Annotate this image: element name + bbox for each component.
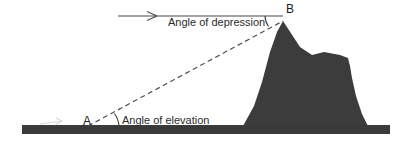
angle-of-elevation-label: Angle of elevation — [122, 114, 209, 126]
ground-direction-arrow-icon — [40, 118, 62, 125]
diagram-canvas: Angle of depression Angle of elevation B… — [0, 0, 400, 146]
ground-line — [22, 125, 390, 134]
point-a-label: A — [83, 114, 91, 128]
point-b-label: B — [286, 2, 294, 16]
mountain-silhouette — [243, 21, 368, 126]
angle-of-depression-arc — [265, 16, 269, 27]
angle-of-depression-label: Angle of depression — [168, 16, 265, 28]
angle-diagram-svg: Angle of depression Angle of elevation B… — [0, 0, 400, 146]
angle-of-elevation-arc — [115, 114, 120, 127]
